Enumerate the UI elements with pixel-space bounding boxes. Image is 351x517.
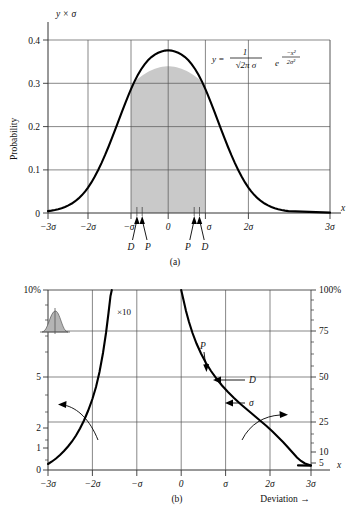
ytick-label-0.4: 0.4 [28, 36, 40, 46]
panel-a-y-axis-header: y × σ [55, 9, 76, 19]
figure-normal-distribution: 0.4 0.3 0.2 0.1 0 y × σ Probability −3σ … [0, 0, 351, 517]
marker-label-D-left: D [127, 242, 135, 252]
equation-numerator: 1 [243, 47, 248, 57]
panel-a-caption: (a) [170, 257, 181, 268]
figure-canvas: 0.4 0.3 0.2 0.1 0 y × σ Probability −3σ … [0, 0, 351, 517]
panel-b-ylabel-right-75: 75 [319, 326, 329, 336]
marker-arrow-D-right [197, 216, 202, 224]
marker-arrow-D-left [134, 216, 139, 224]
panel-b-ylabel-right-5: 5 [319, 458, 324, 468]
panel-a-equation: y = 1 √2π σ e −x² 2σ² [211, 47, 300, 70]
xtick-label-2sigma: 2σ [244, 222, 254, 232]
panel-b-ylabel-right-10: 10 [319, 447, 329, 457]
panel-b-ylabel-left-5: 5 [36, 372, 41, 382]
panel-b-xlabel--1sigma: −σ [131, 479, 142, 489]
panel-b-left-axis-callout-arrow [58, 401, 98, 440]
marker-leader-P-right [190, 224, 194, 240]
panel-b-x-axis-label: x [336, 460, 342, 470]
inset-bell-curve-icon [40, 308, 70, 334]
panel-b-annotation-D-label: D [248, 375, 256, 385]
xtick-label-0: 0 [166, 222, 171, 232]
panel-b-deviation-label: Deviation → [260, 494, 309, 504]
xtick-label--2sigma: −2σ [80, 222, 96, 232]
equation-denominator: √2π σ [236, 60, 257, 70]
panel-b-xlabel-1sigma: σ [223, 479, 228, 489]
marker-leader-P-left [143, 224, 147, 240]
panel-b-annotation-sigma-arrowhead [225, 400, 233, 407]
panel-a-y-axis-label: Probability [9, 118, 19, 160]
marker-label-D-right: D [201, 242, 209, 252]
marker-label-P-right: P [184, 242, 191, 252]
equation-lhs: y = [211, 54, 224, 64]
ytick-label-0.2: 0.2 [28, 122, 40, 132]
panel-b-annotation-P-label: P [199, 341, 206, 351]
panel-b-xlabel--3sigma: −3σ [40, 479, 56, 489]
panel-b-annotation-P: P [199, 341, 209, 372]
xtick-label--3sigma: −3σ [40, 222, 56, 232]
panel-b-right-branch-curve [181, 290, 311, 466]
panel-b-ylabel-left-0: 0 [36, 465, 41, 475]
panel-b-ylabel-left-1: 1 [36, 443, 41, 453]
marker-label-P-left: P [144, 242, 151, 252]
panel-b-xlabel-0: 0 [179, 479, 184, 489]
ytick-label-0: 0 [35, 209, 40, 219]
ytick-label-0.1: 0.1 [28, 165, 40, 175]
equation-exponential-base: e [275, 58, 279, 68]
panel-b-ylabel-right-100: 100% [319, 285, 341, 295]
marker-arrow-P-left [140, 216, 145, 224]
panel-b-ylabel-left-10: 10% [24, 285, 42, 295]
panel-b-ylabel-right-50: 50 [319, 372, 329, 382]
xtick-label-1sigma: σ [207, 222, 212, 232]
xtick-label-3sigma: 3σ [324, 222, 335, 232]
marker-arrow-P-right [192, 216, 197, 224]
panel-a: 0.4 0.3 0.2 0.1 0 y × σ Probability −3σ … [9, 9, 346, 268]
xtick-label--1sigma: −σ [123, 222, 134, 232]
panel-b-annotation-sigma: σ [225, 398, 254, 408]
panel-b-multiplier-label: ×10 [117, 307, 132, 317]
panel-b-annotation-sigma-label: σ [249, 398, 254, 408]
panel-b-xlabel-2sigma: 2σ [265, 479, 275, 489]
panel-b-ylabel-right-25: 25 [319, 417, 329, 427]
panel-b-ylabel-left-2: 2 [36, 423, 41, 433]
marker-leader-D-right [201, 224, 205, 240]
panel-a-x-axis-label: x [340, 203, 346, 213]
equation-exponent-numerator: −x² [286, 49, 296, 56]
panel-b-xlabel--2sigma: −2σ [84, 479, 100, 489]
panel-b: 10% 5 2 1 0 100% 75 50 25 10 5 [24, 285, 342, 505]
equation-exponent-denominator: 2σ² [287, 58, 296, 65]
panel-b-xlabel-3sigma: 3σ [305, 479, 316, 489]
ytick-label-0.3: 0.3 [28, 79, 40, 89]
panel-b-caption: (b) [171, 494, 182, 505]
